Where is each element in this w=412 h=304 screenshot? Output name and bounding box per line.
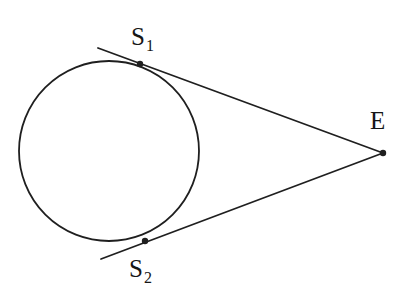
geometry-figure: S1 S2 E	[0, 0, 412, 304]
point-label-e: E	[370, 108, 385, 133]
point-label-e-main: E	[370, 107, 385, 134]
point-label-s1-main: S	[131, 23, 145, 50]
point-label-s2-subscript: 2	[144, 269, 152, 286]
circle-shape	[19, 61, 199, 241]
point-label-s2: S2	[129, 256, 151, 281]
point-s1-dot	[137, 61, 143, 67]
point-s2-dot	[142, 238, 148, 244]
point-label-s2-main: S	[129, 255, 143, 282]
point-label-s1-subscript: 1	[146, 37, 154, 54]
point-e-dot	[380, 150, 386, 156]
point-label-s1: S1	[131, 24, 153, 49]
geometry-canvas	[0, 0, 412, 304]
